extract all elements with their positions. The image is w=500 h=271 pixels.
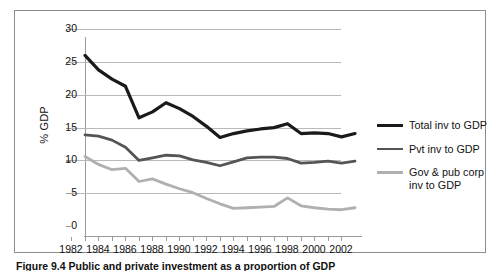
y-tick-label-text: 0	[51, 220, 77, 231]
x-tick-mark	[71, 237, 72, 241]
legend-swatch-gov	[377, 171, 403, 174]
legend-item-private: Pvt inv to GDP	[377, 143, 495, 156]
x-tick-mark	[328, 237, 329, 241]
x-tick-mark	[166, 237, 167, 241]
x-tick-mark	[341, 237, 342, 241]
gridline	[71, 160, 341, 161]
gridline	[71, 95, 341, 96]
x-tick-mark	[206, 237, 207, 241]
y-tick-label: 0	[47, 220, 77, 231]
x-tick-mark	[179, 237, 180, 241]
x-tick-mark	[112, 237, 113, 241]
y-tick-label: 25	[47, 56, 77, 67]
y-axis-title: % GDP	[38, 90, 50, 160]
y-tick-label: 5	[47, 187, 77, 198]
x-tick-mark	[98, 237, 99, 241]
x-tick-mark	[220, 237, 221, 241]
x-tick-mark	[85, 237, 86, 241]
legend-item-gov: Gov & pub corp inv to GDP	[377, 166, 495, 191]
x-tick-mark	[125, 237, 126, 241]
gridline	[71, 29, 341, 30]
legend-swatch-total	[377, 124, 403, 127]
y-tick-label: 30	[47, 23, 77, 34]
x-tick-mark	[247, 237, 248, 241]
y-axis-line	[85, 37, 86, 238]
y-tick-label-text: 25	[51, 56, 77, 67]
gridline	[71, 62, 341, 63]
gridline	[71, 193, 341, 194]
y-tick-label-text: 10	[51, 154, 77, 165]
legend-swatch-private	[377, 148, 403, 151]
series-line-0	[85, 55, 355, 137]
y-tick-label-text: 5	[51, 187, 77, 198]
x-tick-mark	[260, 237, 261, 241]
figure-page: 051015202530 198219841986198819901992199…	[0, 0, 500, 271]
y-tick-label: 20	[47, 89, 77, 100]
x-tick-mark	[274, 237, 275, 241]
series-line-2	[85, 157, 355, 210]
figure-caption: Figure 9.4 Public and private investment…	[16, 260, 486, 271]
y-tick-label: 10	[47, 154, 77, 165]
x-tick-mark	[193, 237, 194, 241]
y-tick-label-text: 30	[51, 23, 77, 34]
figure-frame: 051015202530 198219841986198819901992199…	[14, 10, 486, 253]
chart-legend: Total inv to GDP Pvt inv to GDP Gov & pu…	[377, 119, 495, 202]
x-tick-mark	[287, 237, 288, 241]
x-tick-mark	[233, 237, 234, 241]
x-tick-mark	[301, 237, 302, 241]
y-tick-label-text: 20	[51, 89, 77, 100]
x-tick-mark	[314, 237, 315, 241]
legend-label-gov: Gov & pub corp inv to GDP	[409, 166, 495, 191]
legend-item-total: Total inv to GDP	[377, 119, 495, 132]
legend-label-private: Pvt inv to GDP	[409, 143, 480, 156]
y-tick-label-text: 15	[51, 122, 77, 133]
x-tick-mark	[152, 237, 153, 241]
legend-label-total: Total inv to GDP	[409, 119, 487, 132]
x-tick-label: 2002	[321, 244, 361, 255]
gridline	[71, 128, 341, 129]
x-tick-mark	[139, 237, 140, 241]
y-tick-label: 15	[47, 122, 77, 133]
